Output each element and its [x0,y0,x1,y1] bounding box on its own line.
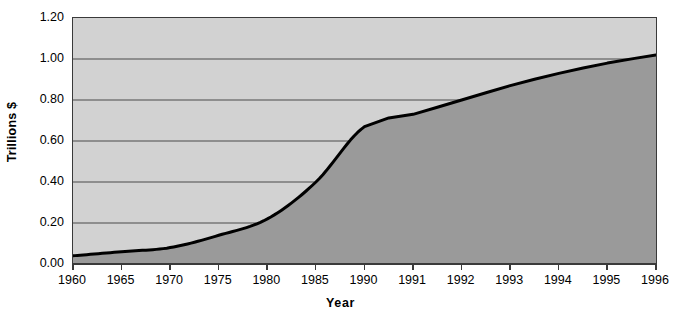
x-axis-tick [266,263,268,270]
x-axis-tick [72,263,74,270]
x-axis-tick [121,263,123,270]
y-axis-tick-label: 0.80 [20,93,64,105]
y-axis-title-label: Trillions $ [5,101,19,162]
y-axis-tick-label: 0.40 [20,175,64,187]
chart-plot-svg [73,18,656,264]
x-axis-tick-label: 1996 [625,273,681,287]
y-axis-tick-label: 1.00 [20,52,64,64]
area-fill-path [73,55,656,264]
y-axis-tick-label: 0.20 [20,216,64,228]
plot-area [72,17,657,264]
x-axis-tick [606,263,608,270]
x-axis-tick [412,263,414,270]
y-axis-tick-label: 0.60 [20,134,64,146]
x-axis-tick [315,263,317,270]
x-axis-title: Year [0,296,681,310]
x-axis-tick [509,263,511,270]
x-axis-tick [655,263,657,270]
x-axis-tick [558,263,560,270]
x-axis-tick [218,263,220,270]
y-axis-tick-labels: 1.201.000.800.600.400.200.00 [24,0,68,280]
x-axis-tick [169,263,171,270]
chart-container: Trillions $ 1.201.000.800.600.400.200.00… [0,0,681,324]
x-axis-tick [461,263,463,270]
y-axis-tick-label: 1.20 [20,11,64,23]
x-axis-tick [364,263,366,270]
